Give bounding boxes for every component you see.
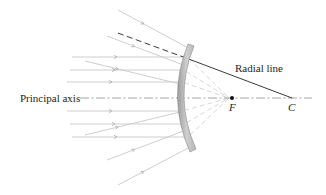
oblique-incident-ray xyxy=(85,112,180,135)
virtual-ray-to-focus xyxy=(189,59,229,98)
focal-point-label: F xyxy=(228,101,236,113)
center-of-curvature-label: C xyxy=(288,101,296,113)
oblique-incident-ray xyxy=(85,61,180,84)
radial-line-label: Radial line xyxy=(235,62,283,74)
virtual-ray-to-focus xyxy=(184,83,229,98)
principal-axis-label: Principal axis xyxy=(20,92,80,104)
virtual-ray-to-focus xyxy=(187,98,229,123)
virtual-ray-to-focus xyxy=(186,71,229,98)
radial-line-extension xyxy=(115,32,186,58)
incident-rays xyxy=(67,10,192,185)
focal-point-dot xyxy=(230,96,234,100)
convex-mirror-diagram: Principal axis Radial line F C xyxy=(0,0,326,195)
virtual-ray-extensions xyxy=(184,59,229,135)
